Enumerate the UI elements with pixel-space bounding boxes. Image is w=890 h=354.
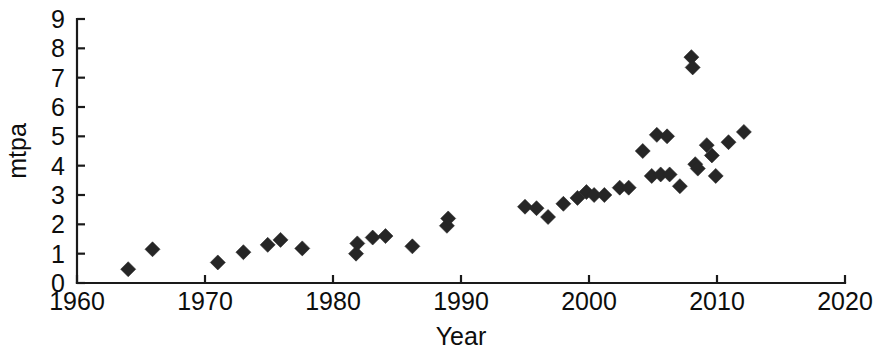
- x-tick-label: 2020: [817, 287, 873, 315]
- y-tick-label: 3: [51, 181, 65, 209]
- y-axis-ticks: 0123456789: [51, 5, 85, 297]
- data-point-marker: [621, 180, 636, 195]
- data-point-marker: [541, 210, 556, 225]
- scatter-chart: 1960197019801990200020102020 0123456789 …: [0, 0, 890, 354]
- data-point-marker: [365, 230, 380, 245]
- data-point-marker: [556, 196, 571, 211]
- x-tick-label: 1990: [433, 287, 489, 315]
- data-point-marker: [378, 229, 393, 244]
- data-point-marker: [295, 241, 310, 256]
- data-point-marker: [721, 135, 736, 150]
- y-tick-label: 0: [51, 269, 65, 297]
- y-tick-label: 4: [51, 152, 65, 180]
- data-point-group: [121, 50, 752, 277]
- data-point-marker: [662, 167, 677, 182]
- data-point-marker: [145, 242, 160, 257]
- data-point-marker: [660, 129, 675, 144]
- data-point-marker: [236, 245, 251, 260]
- data-point-marker: [635, 144, 650, 159]
- axis-group: [77, 19, 845, 283]
- x-axis-title: Year: [436, 322, 487, 350]
- data-point-marker: [529, 201, 544, 216]
- y-tick-label: 8: [51, 34, 65, 62]
- y-tick-label: 2: [51, 210, 65, 238]
- data-point-marker: [597, 188, 612, 203]
- y-tick-label: 6: [51, 93, 65, 121]
- y-tick-label: 7: [51, 64, 65, 92]
- x-axis-ticks: 1960197019801990200020102020: [49, 275, 873, 315]
- data-point-marker: [672, 179, 687, 194]
- y-axis-title: mtpa: [3, 123, 31, 179]
- data-point-marker: [121, 262, 136, 277]
- data-point-marker: [405, 239, 420, 254]
- y-tick-label: 5: [51, 122, 65, 150]
- data-point-marker: [708, 168, 723, 183]
- data-point-marker: [350, 236, 365, 251]
- x-tick-label: 2000: [561, 287, 617, 315]
- data-point-marker: [736, 124, 751, 139]
- data-point-marker: [685, 60, 700, 75]
- x-tick-label: 2010: [689, 287, 745, 315]
- y-tick-label: 1: [51, 240, 65, 268]
- x-tick-label: 1970: [177, 287, 233, 315]
- x-tick-label: 1980: [305, 287, 361, 315]
- plot-canvas: 1960197019801990200020102020 0123456789 …: [0, 0, 890, 354]
- data-point-marker: [210, 255, 225, 270]
- y-tick-label: 9: [51, 5, 65, 33]
